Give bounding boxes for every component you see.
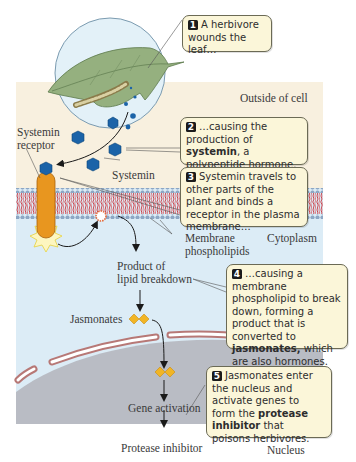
label-lipid-breakdown-product: Product of lipid breakdown — [117, 260, 192, 286]
systemin-hexagon — [87, 158, 99, 171]
callout-bold-term: systemin — [186, 146, 237, 157]
label-systemin: Systemin — [112, 169, 155, 182]
label-protease-inhibitor: Protease inhibitor — [121, 442, 202, 455]
callout-step-2: 2…causing the production of systemin, a … — [180, 117, 308, 165]
callout-step-5: 5Jasmonates enter the nucleus and activa… — [206, 366, 332, 438]
region-label-outside: Outside of cell — [240, 92, 308, 105]
step-number-badge: 3 — [186, 172, 196, 182]
callout-step-3: 3Systemin travels to other parts of the … — [180, 167, 308, 227]
label-line: Product of — [117, 260, 192, 273]
callout-text: …causing the production of — [186, 121, 267, 145]
label-line: Membrane — [185, 232, 250, 245]
label-line: lipid breakdown — [117, 273, 192, 286]
region-label-cytoplasm: Cytoplasm — [267, 232, 317, 245]
label-gene-activation: Gene activation — [128, 402, 200, 415]
label-line: phospholipids — [185, 245, 250, 258]
label-systemin-receptor: Systemin receptor — [17, 126, 60, 152]
callout-text: Systemin travels to other parts of the p… — [186, 171, 300, 232]
systemin-hexagon — [108, 117, 118, 129]
callout-bold-term: jasmonates, — [232, 343, 301, 354]
step-number-badge: 5 — [212, 371, 222, 381]
diagram: Outside of cell Cytoplasm Nucleus System… — [0, 0, 356, 462]
step-number-badge: 1 — [188, 20, 198, 30]
callout-text: A herbivore wounds the leaf… — [188, 19, 259, 55]
step-number-badge: 4 — [232, 269, 242, 279]
systemin-hexagon — [109, 143, 121, 156]
region-label-nucleus: Nucleus — [267, 444, 305, 457]
callout-step-4: 4…causing a membrane phospholipid to bre… — [226, 264, 348, 349]
label-membrane-phospholipids: Membrane phospholipids — [185, 232, 250, 258]
systemin-hexagon — [72, 131, 84, 144]
callout-step-1: 1A herbivore wounds the leaf… — [182, 15, 272, 52]
label-line: Systemin — [17, 126, 60, 139]
callout-text: …causing a membrane phospholipid to brea… — [232, 268, 341, 342]
label-line: receptor — [17, 139, 60, 152]
lipid-breakdown-marker — [96, 211, 106, 221]
step-number-badge: 2 — [186, 122, 196, 132]
label-jasmonates: Jasmonates — [70, 313, 122, 326]
